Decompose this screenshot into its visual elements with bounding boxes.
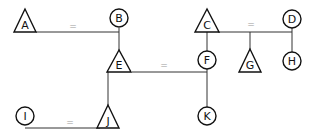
node-label: I bbox=[23, 110, 26, 123]
node-label: J bbox=[105, 115, 109, 128]
node-i: I bbox=[16, 107, 34, 125]
node-label: B bbox=[115, 12, 123, 25]
node-j: J bbox=[97, 105, 119, 128]
node-g: G bbox=[239, 49, 261, 72]
node-label: G bbox=[246, 59, 255, 72]
node-label: K bbox=[203, 110, 211, 123]
union-symbol-a-b: = bbox=[69, 21, 77, 31]
node-label: H bbox=[288, 55, 296, 68]
union-symbol-c-d: = bbox=[247, 19, 255, 29]
node-label: C bbox=[203, 19, 211, 32]
union-symbol-i-j: = bbox=[66, 117, 74, 127]
node-label: E bbox=[116, 59, 123, 72]
node-a: A bbox=[14, 9, 36, 32]
node-e: E bbox=[107, 50, 131, 72]
node-c: C bbox=[195, 9, 219, 32]
union-symbol-e-f: = bbox=[160, 60, 168, 70]
node-label: D bbox=[288, 13, 296, 26]
node-d: D bbox=[283, 10, 301, 28]
pedigree-diagram: = = = = A B C D E F G H I bbox=[0, 0, 319, 139]
node-label: F bbox=[204, 54, 210, 67]
node-b: B bbox=[110, 9, 128, 27]
node-label: A bbox=[21, 19, 29, 32]
node-k: K bbox=[198, 107, 216, 125]
node-f: F bbox=[198, 51, 216, 69]
node-h: H bbox=[283, 52, 301, 70]
